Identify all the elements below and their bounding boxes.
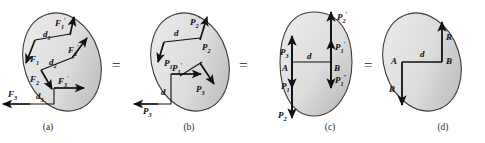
caption-a: (a)	[28, 122, 68, 132]
mechanics-figure: F1′ d1 F2′ F1 d2 F2 F3′ F3 d3 (a) =	[0, 0, 485, 143]
label-d2: d2	[49, 58, 57, 69]
label-R-bottom: R	[389, 85, 395, 94]
label-point-A: A	[282, 64, 288, 73]
label-d-top: d	[174, 29, 179, 38]
label-P1-double-prime: P1″	[335, 74, 347, 87]
label-d-left: d	[161, 88, 166, 97]
label-d: d	[307, 52, 312, 61]
label-F2: F2	[30, 75, 39, 86]
label-point-B: B	[446, 57, 452, 66]
label-P1-prime: P1′	[172, 62, 182, 75]
caption-b: (b)	[169, 122, 209, 132]
label-F1: F1	[30, 55, 39, 66]
label-F3-prime: F3′	[58, 75, 69, 88]
caption-d: (d)	[423, 122, 463, 132]
label-F2-prime: F2′	[68, 44, 79, 57]
label-P3-inner: P3	[196, 85, 205, 96]
panel-d: R d A B R (d)	[360, 0, 485, 143]
equals-sign-2: =	[239, 58, 247, 73]
label-P3: P3	[143, 107, 152, 118]
label-P3: P3	[280, 48, 289, 59]
label-d: d	[420, 50, 425, 59]
label-F1-prime: F1′	[55, 17, 66, 30]
label-d1: d1	[43, 30, 51, 41]
label-P2-prime: P2′	[190, 16, 200, 29]
label-P2-inner: P2	[202, 43, 211, 54]
label-R-top: R	[446, 33, 452, 42]
panel-b: P2′ d P2 P1 P1′ P3 d P3 (b)	[128, 0, 253, 143]
label-P2: P2	[278, 111, 287, 122]
label-P2-prime: P2′	[337, 11, 347, 24]
panel-c: P2′ P3 A d B P1′ P1″ P1 P2 (c)	[252, 0, 377, 143]
panel-a: F1′ d1 F2′ F1 d2 F2 F3′ F3 d3 (a)	[0, 0, 125, 143]
label-point-A: A	[391, 57, 397, 66]
label-P1: P1	[281, 82, 290, 93]
label-P1-prime: P1′	[335, 41, 345, 54]
label-point-B: B	[334, 64, 340, 73]
body-outline	[280, 12, 352, 116]
label-F3: F3	[8, 90, 17, 101]
label-d3: d3	[36, 92, 44, 103]
equals-sign-1: =	[112, 58, 120, 73]
caption-c: (c)	[310, 122, 350, 132]
